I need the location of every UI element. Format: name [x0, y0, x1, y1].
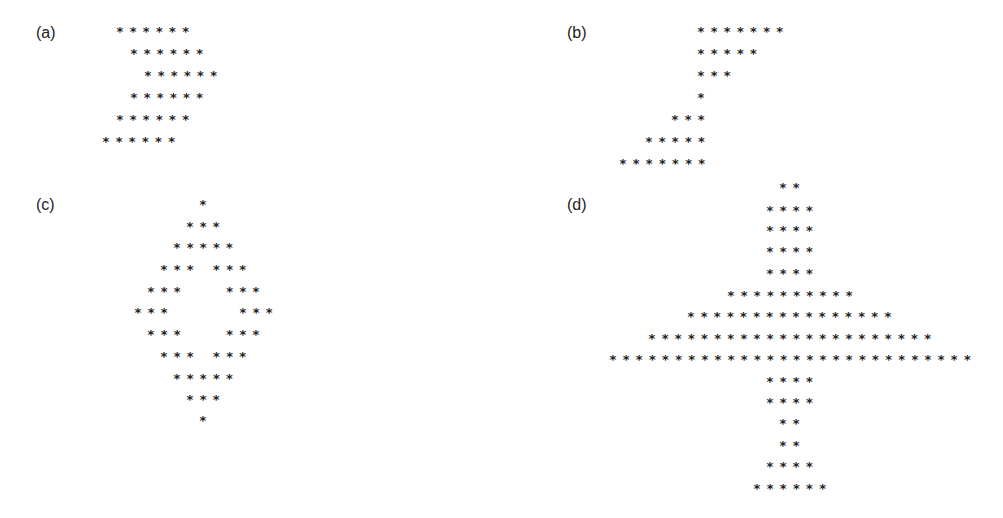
star-row: *: [697, 88, 710, 108]
star-row: ******: [144, 66, 223, 86]
star-row: ******: [753, 479, 832, 499]
star-row: ****: [766, 264, 819, 284]
star-row: ****: [766, 201, 819, 221]
star-row: **: [779, 178, 805, 198]
star-row: *: [199, 195, 212, 215]
star-row: ****************************: [609, 350, 977, 370]
panel-label-b: (b): [567, 24, 587, 42]
star-row: **********************: [648, 329, 937, 349]
star-row: ***: [186, 390, 225, 410]
star-row: *****: [697, 44, 763, 64]
star-row: *: [199, 411, 212, 431]
star-row: *** ***: [147, 282, 265, 302]
star-row: **: [779, 414, 805, 434]
star-row: ******: [130, 44, 209, 64]
star-row: ***: [186, 217, 225, 237]
star-row: *******: [697, 22, 789, 42]
star-row: *****: [645, 132, 711, 152]
star-row: *** ***: [160, 347, 252, 367]
star-row: ****: [766, 457, 819, 477]
panel-label-d: (d): [567, 196, 587, 214]
panel-label-c: (c): [36, 196, 55, 214]
star-row: ***: [671, 110, 710, 130]
star-row: *****: [173, 369, 239, 389]
star-row: ****: [766, 242, 819, 262]
star-row: ******: [102, 132, 181, 152]
star-row: ******: [116, 110, 195, 130]
panel-label-a: (a): [36, 24, 56, 42]
star-row: ******: [130, 88, 209, 108]
star-row: ****: [766, 393, 819, 413]
star-row: *** ***: [147, 325, 265, 345]
star-row: *** ***: [134, 303, 278, 323]
star-row: *** ***: [160, 260, 252, 280]
star-row: *****: [173, 238, 239, 258]
star-row: ****: [766, 372, 819, 392]
star-row: *******: [619, 154, 711, 174]
star-row: ****: [766, 221, 819, 241]
star-row: ******: [116, 22, 195, 42]
star-row: ****************: [687, 307, 897, 327]
star-row: **********: [727, 286, 858, 306]
star-row: ***: [697, 66, 736, 86]
star-row: **: [779, 436, 805, 456]
